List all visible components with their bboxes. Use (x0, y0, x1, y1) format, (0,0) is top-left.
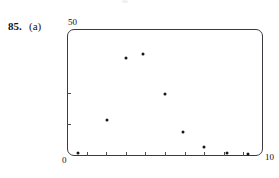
data-point (124, 57, 127, 60)
data-point (76, 151, 79, 154)
x-axis-tick (106, 152, 107, 156)
data-point (164, 92, 167, 95)
data-point (203, 146, 206, 149)
data-point (142, 52, 145, 55)
x-axis-tick (145, 152, 146, 156)
x-axis-tick (87, 152, 88, 156)
scatter-plot-area (67, 29, 263, 156)
figure-page: 85. (a) 50 0 10 (0, 0, 279, 178)
y-axis-tick (67, 93, 71, 94)
x-axis-tick (204, 152, 205, 156)
x-axis-tick (165, 152, 166, 156)
data-point (181, 130, 184, 133)
x-axis-tick (126, 152, 127, 156)
y-axis-tick (67, 124, 71, 125)
data-point (106, 119, 109, 122)
scan-artifact (122, 0, 128, 3)
x-axis-tick (185, 152, 186, 156)
figure-part-label: (a) (29, 20, 41, 32)
y-axis-min-label: 0 (62, 155, 67, 165)
exercise-number: 85. (8, 20, 22, 32)
data-point (247, 153, 250, 156)
x-axis-max-label: 10 (265, 152, 274, 162)
y-axis-max-label: 50 (68, 17, 77, 27)
data-point (225, 152, 228, 155)
x-axis-tick (243, 152, 244, 156)
